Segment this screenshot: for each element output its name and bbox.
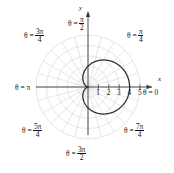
- theta-prefix: θ =: [24, 31, 34, 40]
- grid-ray-60deg: [88, 42, 114, 87]
- x-tick-4: 4: [128, 90, 132, 97]
- x-tick-1: 1: [96, 90, 100, 97]
- grid-ray-165deg: [38, 74, 88, 87]
- theta-prefix: θ =: [127, 31, 137, 40]
- theta-pi-over-2-label: θ = π 2: [68, 16, 84, 32]
- theta-3pi-over-4-label: θ = 3π 4: [24, 28, 44, 44]
- x-tick-3: 3: [117, 90, 121, 97]
- pi-symbol: π: [26, 83, 30, 92]
- theta-5pi-over-4-label: θ = 5π 4: [22, 123, 42, 139]
- grid-ray-15deg: [88, 74, 138, 87]
- y-axis-label: y: [79, 5, 82, 12]
- grid-ray-225deg: [51, 87, 88, 124]
- grid-ray-150deg: [43, 61, 88, 87]
- theta-7pi-over-4-label: θ = 7π 4: [124, 123, 144, 139]
- theta-3pi-over-2-label: θ = 3π 2: [66, 146, 86, 162]
- x-axis-label: x: [158, 76, 161, 83]
- grid-ray-255deg: [75, 87, 88, 137]
- theta-pi-label: θ = π: [15, 84, 30, 91]
- x-tick-2: 2: [107, 90, 111, 97]
- theta-prefix: θ =: [15, 83, 25, 92]
- fraction-pi-over-4: π 4: [138, 28, 143, 44]
- fraction-5pi-over-4: 5π 4: [33, 123, 41, 139]
- grid-ray-120deg: [62, 42, 88, 87]
- grid-ray-105deg: [75, 37, 88, 87]
- y-axis-arrowhead: [86, 11, 90, 17]
- grid-ray-135deg: [51, 50, 88, 87]
- theta-prefix: θ =: [66, 149, 76, 158]
- fraction-pi-over-2: π 2: [79, 16, 84, 32]
- theta-zero-label: θ = 0: [143, 89, 158, 96]
- x-tick-5: 5: [138, 90, 142, 97]
- grid-ray-240deg: [62, 87, 88, 132]
- theta-pi-over-4-label: θ = π 4: [127, 28, 143, 44]
- fraction-3pi-over-2: 3π 2: [77, 146, 85, 162]
- theta-prefix: θ =: [68, 19, 78, 28]
- fraction-7pi-over-4: 7π 4: [135, 123, 143, 139]
- theta-prefix: θ =: [124, 126, 134, 135]
- fraction-3pi-over-4: 3π 4: [35, 28, 43, 44]
- grid-ray-45deg: [88, 50, 125, 87]
- grid-ray-210deg: [43, 87, 88, 113]
- theta-prefix: θ =: [22, 126, 32, 135]
- grid-ray-195deg: [38, 87, 88, 100]
- polar-cardioid-figure: x y θ = 0 1 2 3 4 5 θ = π 2 θ = 3π 4 θ =…: [0, 0, 174, 173]
